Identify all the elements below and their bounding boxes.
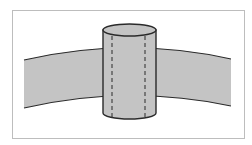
band-cylinder-diagram [0,0,252,145]
cylinder [103,24,156,119]
